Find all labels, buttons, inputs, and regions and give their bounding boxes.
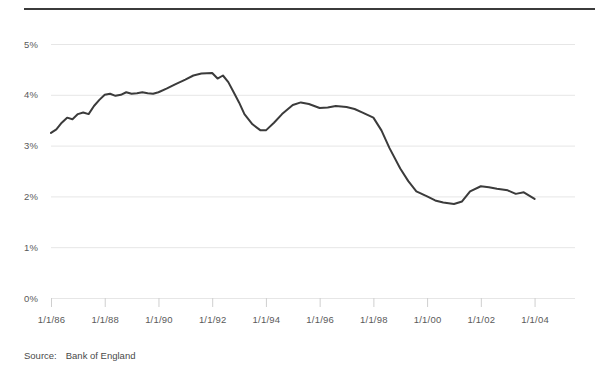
y-axis-tick-label: 2% [24, 191, 38, 202]
source-note: Source:Bank of England [24, 350, 135, 361]
y-axis-tick-label: 3% [24, 140, 38, 151]
source-label: Source: [24, 350, 57, 361]
y-axis-tick-label: 4% [24, 89, 38, 100]
y-axis-tick-label: 5% [24, 39, 38, 50]
x-axis-tick-label: 1/1/90 [145, 314, 173, 325]
plot-area: 0%1%2%3%4%5%1/1/861/1/881/1/901/1/921/1/… [0, 0, 607, 340]
x-axis-tick-label: 1/1/96 [306, 314, 334, 325]
data-series-line [51, 73, 535, 204]
x-axis-tick-label: 1/1/86 [38, 314, 66, 325]
y-axis-tick-label: 1% [24, 242, 38, 253]
line-chart-svg [0, 0, 607, 340]
x-axis-tick-label: 1/1/92 [199, 314, 227, 325]
chart-figure: 0%1%2%3%4%5%1/1/861/1/881/1/901/1/921/1/… [0, 0, 607, 387]
x-axis-tick-label: 1/1/88 [91, 314, 119, 325]
x-axis-tick-label: 1/1/04 [521, 314, 549, 325]
x-axis-tick-label: 1/1/94 [253, 314, 281, 325]
x-axis-tick-label: 1/1/98 [360, 314, 388, 325]
x-axis-tick-label: 1/1/02 [468, 314, 496, 325]
y-axis-tick-label: 0% [24, 293, 38, 304]
source-value: Bank of England [66, 350, 136, 361]
x-axis-tick-label: 1/1/00 [414, 314, 442, 325]
